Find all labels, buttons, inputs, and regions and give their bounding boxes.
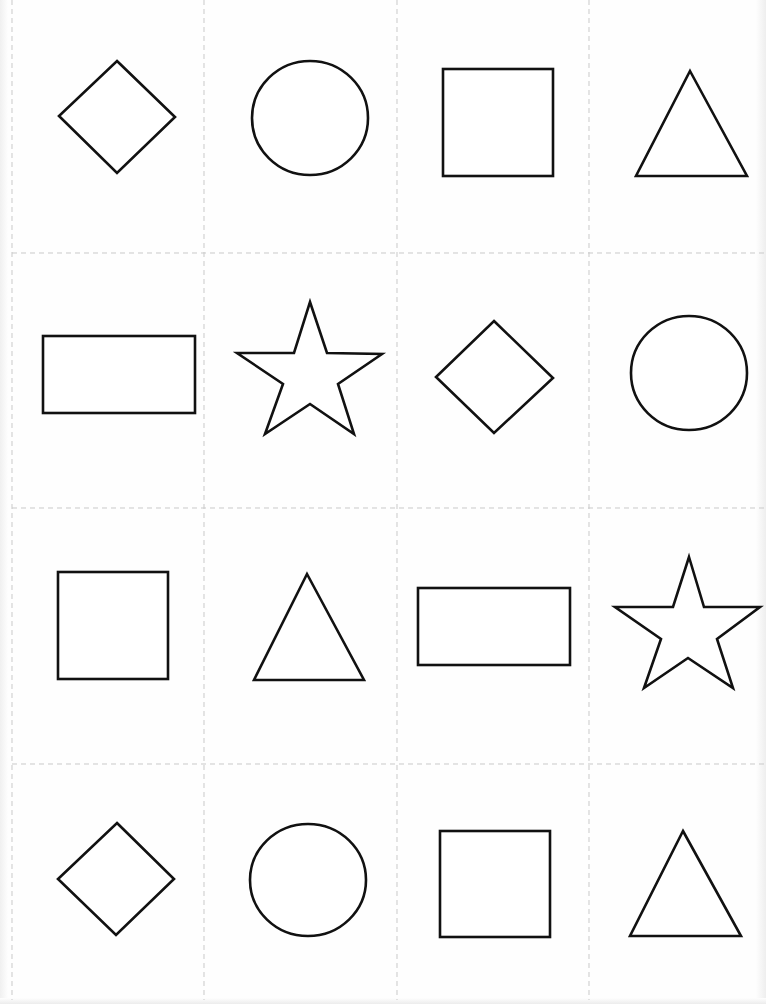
card-r1-c2	[252, 61, 368, 175]
card-r3-c4	[615, 557, 760, 688]
star-shape	[615, 557, 760, 688]
rectangle-shape	[43, 336, 195, 413]
card-r2-c2	[237, 302, 382, 434]
card-r3-c3	[418, 588, 570, 665]
circle-shape	[250, 824, 366, 936]
card-r2-c3	[436, 321, 553, 433]
card-r4-c4	[630, 831, 741, 936]
circle-shape	[252, 61, 368, 175]
diamond-shape	[436, 321, 553, 433]
square-shape	[443, 69, 553, 176]
diamond-shape	[58, 823, 174, 935]
card-r2-c1	[43, 336, 195, 413]
card-r3-c2	[254, 574, 364, 680]
card-r3-c1	[58, 572, 168, 679]
triangle-shape	[254, 574, 364, 680]
shape-card-grid	[0, 0, 766, 1004]
diamond-shape	[59, 61, 175, 173]
card-r1-c4	[636, 71, 747, 176]
star-shape	[237, 302, 382, 434]
circle-shape	[631, 316, 747, 430]
worksheet-page	[0, 0, 766, 1004]
card-r4-c1	[58, 823, 174, 935]
card-r4-c3	[440, 831, 550, 937]
rectangle-shape	[418, 588, 570, 665]
square-shape	[440, 831, 550, 937]
square-shape	[58, 572, 168, 679]
triangle-shape	[636, 71, 747, 176]
card-r4-c2	[250, 824, 366, 936]
card-r1-c1	[59, 61, 175, 173]
triangle-shape	[630, 831, 741, 936]
card-r2-c4	[631, 316, 747, 430]
card-r1-c3	[443, 69, 553, 176]
